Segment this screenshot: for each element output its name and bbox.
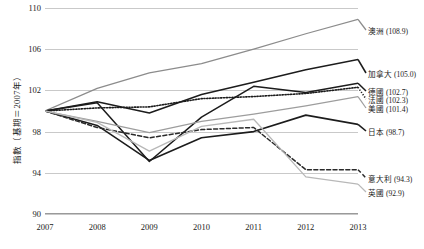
x-axis-tick-label: 2007 [22, 222, 68, 232]
series-end-label: 加拿大 (105.0) [368, 68, 416, 79]
series-end-label: 日本 (98.7) [368, 126, 404, 137]
series-end-label: 德國 (102.7) [368, 86, 408, 97]
y-axis-tick-label: 94 [1, 168, 41, 178]
data-lines [45, 8, 358, 214]
x-axis-tick-label: 2012 [283, 222, 329, 232]
series-end-label: 英國 (92.9) [368, 187, 404, 198]
x-axis-tick-label: 2009 [126, 222, 172, 232]
x-axis-tick-label: 2008 [74, 222, 120, 232]
y-axis-tick-label: 102 [1, 85, 41, 95]
x-axis-tick-label: 2011 [231, 222, 277, 232]
line-chart: 指數（基期＝2007年） 909498102106110 20072008200… [0, 0, 424, 249]
x-axis-tick-label: 2010 [179, 222, 225, 232]
x-axis-tick-label: 2013 [335, 222, 381, 232]
series-end-label: 意大利 (94.3) [368, 173, 412, 184]
series-end-label: 法國 (102.3) [368, 94, 408, 105]
y-axis-tick-label: 110 [1, 3, 41, 13]
y-axis-tick-labels: 909498102106110 [0, 8, 41, 214]
series-line [45, 111, 358, 160]
plot-area [45, 8, 358, 214]
series-line [45, 111, 358, 184]
series-line [45, 19, 358, 111]
gridline [45, 214, 358, 215]
series-end-label: 美國 (101.4) [368, 103, 408, 114]
x-axis-tick-labels: 2007200820092010201120122013 [45, 222, 358, 236]
x-axis-line [45, 213, 358, 214]
series-end-label: 澳洲 (108.9) [368, 25, 408, 36]
y-axis-tick-label: 90 [1, 209, 41, 219]
y-axis-tick-label: 98 [1, 127, 41, 137]
y-axis-tick-label: 106 [1, 44, 41, 54]
